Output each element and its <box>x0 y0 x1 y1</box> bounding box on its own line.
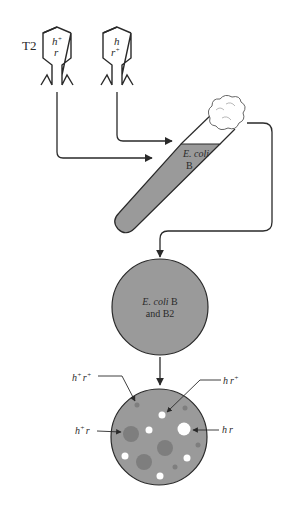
phage-h-plus-r: h+ r <box>41 27 73 85</box>
plaque-h-r-plus <box>159 412 166 419</box>
test-tube: E. coli B <box>115 95 245 232</box>
plate-ecoli-b-and-b2: E. coli B and B2 <box>112 259 208 355</box>
arrow-tube-to-plate <box>160 123 272 257</box>
svg-text:E. coli B: E. coli B <box>141 296 178 307</box>
gene-r: r <box>54 46 59 58</box>
svg-text:hr+: hr+ <box>223 374 239 386</box>
svg-text:r+: r+ <box>111 46 120 58</box>
plate-label-and-b2: and B2 <box>146 308 175 319</box>
plate-label-ecoli: E. coli <box>141 296 168 307</box>
tube-label-b: B <box>186 160 193 171</box>
svg-text:h+r: h+r <box>75 424 90 436</box>
cotton-plug-icon <box>208 95 245 129</box>
t2-label: T2 <box>22 38 36 53</box>
svg-text:hr: hr <box>222 424 233 435</box>
svg-text:r: r <box>54 46 59 58</box>
plate-plaques <box>111 389 207 485</box>
arrow-phage2-to-tube <box>117 92 172 141</box>
plaque-h-plus-r-plus <box>135 403 140 408</box>
arrow-phage1-to-tube <box>57 92 152 158</box>
plaque-h-r <box>178 423 191 436</box>
label-hp-rp: h+r+ <box>72 371 135 401</box>
tube-label-ecoli: E. coli <box>182 148 209 159</box>
phage-h-r-plus: h r+ <box>101 27 133 85</box>
svg-text:h+r+: h+r+ <box>72 371 92 383</box>
plaque-h-plus-r <box>123 426 139 442</box>
phage-cross-diagram: T2 h+ r h r+ E. <box>0 0 293 506</box>
